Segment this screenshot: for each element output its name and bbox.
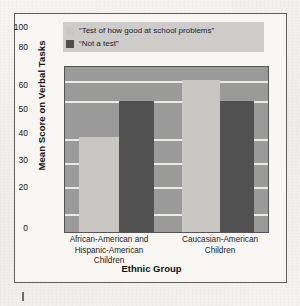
chart-legend: “Test of how good at school problems” “N… <box>63 22 264 52</box>
y-axis-title: Mean Score on Verbal Tasks <box>36 36 47 176</box>
y-tick-60: 60 <box>0 80 28 90</box>
x-category-2-line-2: Children <box>166 246 274 257</box>
legend-label-test: “Test of how good at school problems” <box>79 26 214 36</box>
y-tick-30: 30 <box>0 155 28 165</box>
plot-area <box>64 66 269 233</box>
figure-frame: “Test of how good at school problems” “N… <box>14 13 287 283</box>
x-category-2-line-1: Caucasian-American <box>166 235 274 246</box>
legend-swatch-light-icon <box>66 27 74 35</box>
bar-group1-test <box>79 137 119 232</box>
legend-label-not-a-test: “Not a test” <box>79 39 119 49</box>
page-tick-mark <box>22 292 24 301</box>
x-category-label-2: Caucasian-American Children <box>166 235 274 256</box>
x-category-1-line-1: African-American and <box>53 235 165 246</box>
y-tick-40: 40 <box>0 128 28 138</box>
x-axis-title: Ethnic Group <box>15 263 288 274</box>
y-tick-20: 20 <box>0 182 28 192</box>
legend-item-not-a-test: “Not a test” <box>66 37 264 50</box>
y-tick-100: 100 <box>0 22 28 32</box>
bar-group2-not-a-test <box>220 101 254 232</box>
y-tick-0: 0 <box>0 223 28 233</box>
legend-item-test: “Test of how good at school problems” <box>66 24 264 37</box>
gridline-100 <box>65 81 268 83</box>
x-category-label-1: African-American and Hispanic-American C… <box>53 235 165 267</box>
bar-group2-test <box>182 80 220 232</box>
y-tick-50: 50 <box>0 104 28 114</box>
x-category-1-line-2: Hispanic-American <box>53 246 165 257</box>
y-tick-80: 80 <box>0 42 28 52</box>
bar-group1-not-a-test <box>119 101 154 232</box>
legend-swatch-dark-icon <box>66 40 74 48</box>
